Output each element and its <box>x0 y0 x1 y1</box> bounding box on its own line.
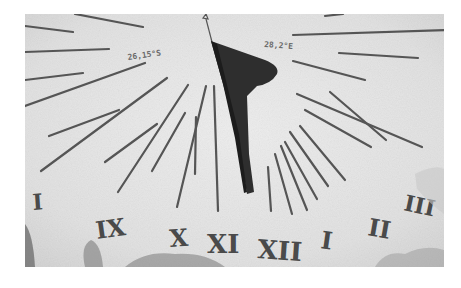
numeral-x: X <box>168 223 189 253</box>
sundial-photo: 26,15°S 28,2°E I IX X XI XII I II III <box>25 14 444 267</box>
numeral-ix: IX <box>94 212 128 245</box>
numeral-xi: XI <box>207 229 239 259</box>
numeral-xii: XII <box>257 234 303 267</box>
numeral-viii-partial: I <box>32 188 44 215</box>
sundial-illustration: 26,15°S 28,2°E I IX X XI XII I II III <box>25 14 444 267</box>
